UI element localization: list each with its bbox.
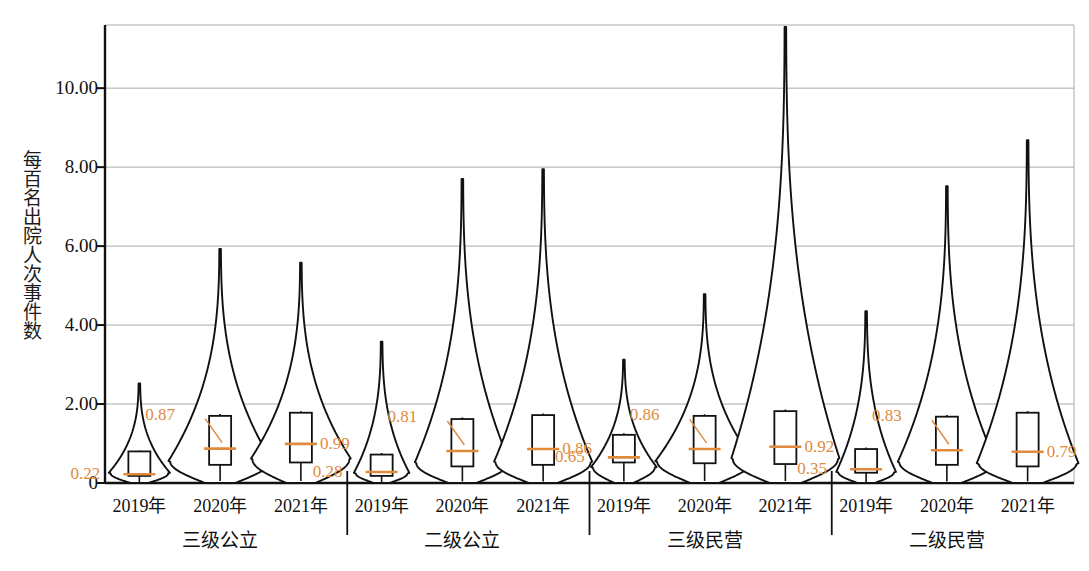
violin-二级公立-2020年 <box>415 179 510 483</box>
iqr-box <box>774 411 796 464</box>
violin-chart: 每百名出院人次事件数 02.004.006.008.0010.00 0.2220… <box>0 0 1089 571</box>
iqr-box <box>128 451 150 475</box>
plot-area <box>0 0 1089 571</box>
iqr-box <box>1017 413 1039 467</box>
violin-二级公立-2019年 <box>354 342 409 483</box>
violin-三级民营-2019年 <box>591 360 657 483</box>
violin-二级公立-2021年 <box>494 169 592 483</box>
violin-三级民营-2021年 <box>731 27 839 483</box>
violin-二级民营-2021年 <box>977 140 1079 483</box>
violin-二级民营-2019年 <box>836 311 896 483</box>
violin-二级民营-2020年 <box>898 186 996 483</box>
violin-三级公立-2019年 <box>109 384 170 484</box>
iqr-box <box>290 413 312 463</box>
violin-三级公立-2021年 <box>251 263 351 483</box>
violin-三级公立-2020年 <box>169 249 272 483</box>
iqr-box <box>532 415 554 465</box>
